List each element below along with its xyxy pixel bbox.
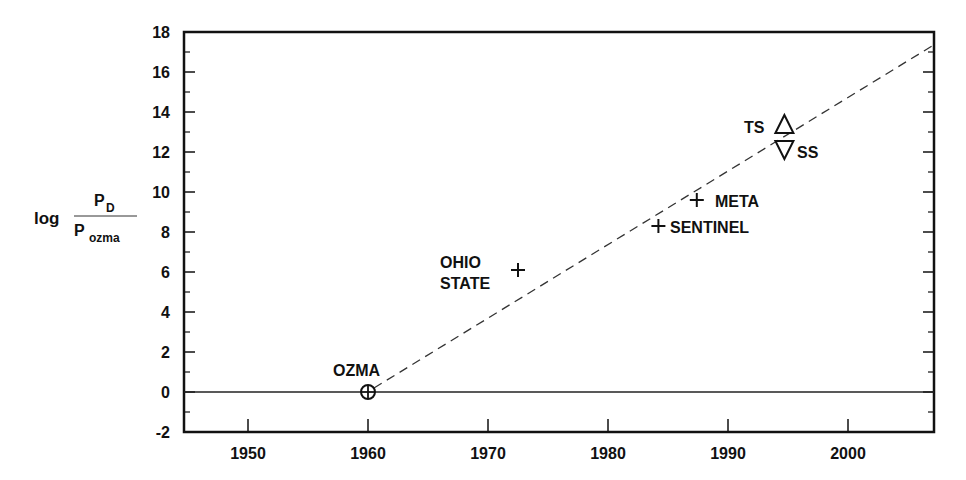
y-axis-label: log P D P ozma <box>34 192 137 245</box>
y-tick-label: 4 <box>161 304 170 321</box>
label-sentinel: SENTINEL <box>670 219 749 236</box>
y-tick-label: 2 <box>161 344 170 361</box>
label-ss: SS <box>797 144 819 161</box>
y-tick-label: 12 <box>152 144 170 161</box>
x-tick-label: 1960 <box>350 445 386 462</box>
label-meta: META <box>715 193 760 210</box>
y-tick-label: 8 <box>161 224 170 241</box>
triangle-down-marker <box>775 141 793 159</box>
x-tick-label: 2000 <box>830 445 866 462</box>
y-tick-label: 18 <box>152 24 170 41</box>
label-ozma: OZMA <box>333 362 381 379</box>
y-tick-label: 0 <box>161 384 170 401</box>
plot-frame <box>184 32 934 432</box>
ylabel-numerator: P <box>94 192 105 209</box>
y-tick-label: 16 <box>152 64 170 81</box>
y-axis: 181614121086420-2 <box>152 24 934 441</box>
ylabel-numerator-sub: D <box>106 201 115 215</box>
chart: 181614121086420-2 1950196019701980199020… <box>0 0 966 480</box>
x-tick-label: 1990 <box>710 445 746 462</box>
label-ts: TS <box>744 119 765 136</box>
trend-line-dashed <box>374 46 932 388</box>
label-ohio: OHIO <box>440 254 481 271</box>
y-tick-label: 10 <box>152 184 170 201</box>
ylabel-log: log <box>34 209 60 228</box>
y-tick-label: 6 <box>161 264 170 281</box>
x-tick-label: 1980 <box>590 445 626 462</box>
y-tick-label: 14 <box>152 104 170 121</box>
triangle-up-marker <box>775 115 793 133</box>
ylabel-denominator-sub: ozma <box>89 231 120 245</box>
ylabel-denominator: P <box>74 222 85 239</box>
x-tick-label: 1970 <box>470 445 506 462</box>
x-axis: 195019601970198019902000 <box>230 419 866 462</box>
x-tick-label: 1950 <box>230 445 266 462</box>
y-tick-label: -2 <box>156 424 170 441</box>
label-state: STATE <box>440 275 490 292</box>
